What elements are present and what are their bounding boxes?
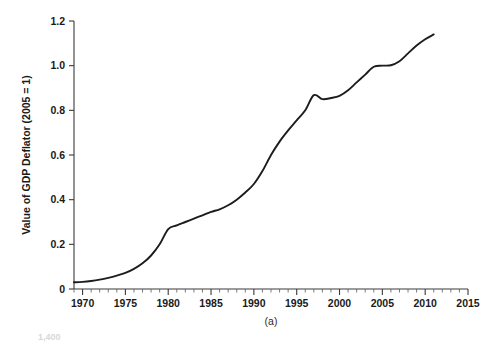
series-line-gdp-deflator — [74, 34, 434, 282]
y-tick-label: 0.4 — [50, 193, 65, 205]
y-tick-label: 1.2 — [50, 15, 65, 27]
panel-label: (a) — [265, 315, 278, 327]
x-tick-label: 2010 — [413, 297, 437, 309]
x-tick-label: 2005 — [371, 297, 395, 309]
y-tick-label: 0.6 — [50, 149, 65, 161]
gdp-deflator-line-chart: 00.20.40.60.81.01.2 19701975198019851990… — [0, 0, 486, 342]
x-tick-label: 1990 — [242, 297, 266, 309]
figure-panel-a: 00.20.40.60.81.01.2 19701975198019851990… — [0, 0, 486, 342]
x-tick-label: 1970 — [71, 297, 95, 309]
x-axis-ticks: 1970197519801985199019952000200520102015 — [71, 289, 480, 309]
next-panel-partial-tick-label: 1,400 — [38, 332, 61, 342]
y-axis-ticks: 00.20.40.60.81.01.2 — [50, 15, 74, 295]
x-tick-label: 1980 — [157, 297, 181, 309]
x-tick-label: 2000 — [328, 297, 352, 309]
y-tick-label: 0.8 — [50, 104, 65, 116]
x-tick-label: 1995 — [285, 297, 309, 309]
x-tick-label: 2015 — [456, 297, 480, 309]
x-tick-label: 1975 — [114, 297, 138, 309]
y-tick-label: 1.0 — [50, 59, 65, 71]
x-tick-label: 1985 — [199, 297, 223, 309]
y-tick-label: 0.2 — [50, 238, 65, 250]
y-axis-title: Value of GDP Deflator (2005 = 1) — [20, 75, 32, 234]
y-tick-label: 0 — [59, 283, 65, 295]
